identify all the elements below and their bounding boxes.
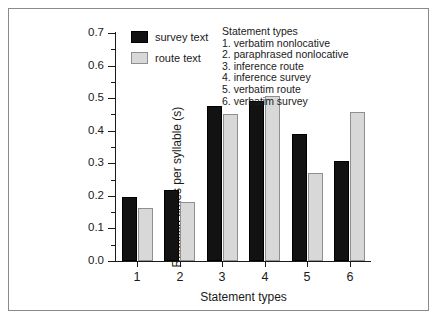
- y-tick-major: [108, 163, 116, 164]
- x-tick-label: 4: [250, 270, 280, 284]
- bar-survey-2: [164, 190, 179, 261]
- y-tick-major: [108, 196, 116, 197]
- legend-label-survey-text: survey text: [155, 31, 208, 43]
- x-tick: [137, 261, 138, 267]
- x-tick-label: 1: [122, 270, 152, 284]
- x-tick-label: 6: [335, 270, 365, 284]
- statement-types-list: 1. verbatim nonlocative2. paraphrased no…: [222, 38, 349, 108]
- figure-canvas: 0.00.10.20.30.40.50.60.7 123456 Reaction…: [0, 0, 439, 320]
- bar-route-6: [350, 112, 365, 261]
- legend-item-route-text: route text: [131, 49, 208, 66]
- statement-types-title: Statement types: [222, 26, 349, 38]
- y-tick-label: 0.4: [70, 125, 108, 137]
- bar-survey-3: [207, 106, 222, 261]
- legend: survey text route text: [131, 28, 208, 70]
- y-tick-label: 0.3: [70, 158, 108, 170]
- y-tick-label: 0.0: [70, 255, 108, 267]
- y-tick-major: [108, 66, 116, 67]
- legend-swatch-route-text-icon: [131, 52, 148, 64]
- legend-label-route-text: route text: [155, 52, 201, 64]
- bar-route-1: [138, 208, 153, 261]
- x-tick: [265, 261, 266, 267]
- statement-types-annotation: Statement types 1. verbatim nonlocative2…: [222, 26, 349, 107]
- statement-type-item-6: 6. verbatim survey: [222, 96, 349, 108]
- legend-item-survey-text: survey text: [131, 28, 208, 45]
- x-tick: [307, 261, 308, 267]
- x-axis-line: [115, 261, 371, 262]
- y-tick-label: 0.6: [70, 60, 108, 72]
- bar-survey-1: [122, 197, 137, 261]
- y-tick-label: 0.5: [70, 92, 108, 104]
- x-axis-title: Statement types: [116, 290, 371, 304]
- bar-route-2: [180, 202, 195, 261]
- y-tick-major: [108, 33, 116, 34]
- bar-survey-6: [334, 161, 349, 261]
- statement-type-item-5: 5. verbatim route: [222, 84, 349, 96]
- y-tick-major: [108, 228, 116, 229]
- y-tick-major: [108, 131, 116, 132]
- bar-survey-5: [292, 134, 307, 261]
- bar-survey-4: [249, 101, 264, 261]
- bar-route-3: [223, 114, 238, 261]
- bar-route-5: [308, 173, 323, 261]
- y-tick-major: [108, 98, 116, 99]
- x-tick-label: 5: [292, 270, 322, 284]
- bar-route-4: [265, 96, 280, 261]
- y-tick-label: 0.1: [70, 223, 108, 235]
- legend-swatch-survey-text-icon: [131, 31, 148, 43]
- y-axis-title: Reaction times per syllable (s): [170, 72, 184, 302]
- x-tick-label: 3: [207, 270, 237, 284]
- x-tick: [222, 261, 223, 267]
- x-tick: [350, 261, 351, 267]
- y-tick-label: 0.7: [70, 27, 108, 39]
- y-tick-label: 0.2: [70, 190, 108, 202]
- y-tick-major: [108, 261, 116, 262]
